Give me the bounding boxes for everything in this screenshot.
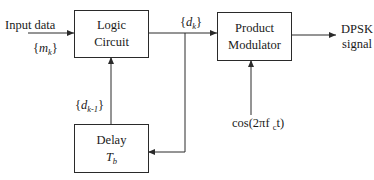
output-label-line1: DPSK	[341, 22, 373, 37]
delay-label: Delay	[97, 132, 127, 149]
dk-minus-1-label: {dk-1}	[75, 98, 104, 112]
delay-symbol: Tb	[106, 149, 117, 166]
product-modulator-block: Product Modulator	[217, 12, 292, 61]
product-modulator-label-line2: Modulator	[228, 37, 281, 54]
output-label: DPSK signal	[341, 22, 373, 52]
logic-circuit-block: Logic Circuit	[74, 10, 149, 58]
product-modulator-label-line1: Product	[235, 20, 274, 37]
logic-circuit-label-line1: Logic	[97, 17, 126, 34]
logic-circuit-label-line2: Circuit	[94, 34, 129, 51]
input-data-label: Input data	[5, 18, 55, 32]
output-label-line2: signal	[341, 37, 373, 52]
input-sequence-label: {mk}	[33, 41, 58, 55]
carrier-label: cos(2πf ct)	[232, 116, 284, 130]
delay-block: Delay Tb	[74, 124, 149, 173]
dk-sequence-label: {dk}	[180, 15, 202, 29]
